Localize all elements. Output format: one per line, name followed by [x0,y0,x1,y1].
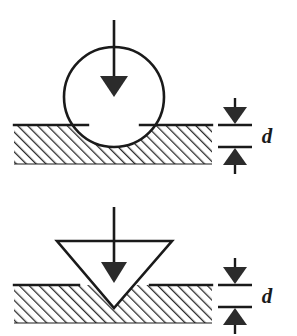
depth-arrow-down-bottom-icon [223,258,247,284]
depth-dimension-top: d [218,98,273,174]
depth-label-top: d [262,124,273,148]
indentation-hardness-figure: d [0,0,297,336]
conical-indenter-panel: d [14,207,273,334]
spherical-indenter-panel: d [14,20,273,174]
depth-arrow-up-top-icon [223,148,247,174]
depth-label-bottom: d [262,284,273,308]
depth-arrow-down-top-icon [223,98,247,124]
depth-dimension-bottom: d [218,258,273,334]
depth-arrow-up-bottom-icon [223,308,247,334]
figure-canvas: d [0,0,297,336]
